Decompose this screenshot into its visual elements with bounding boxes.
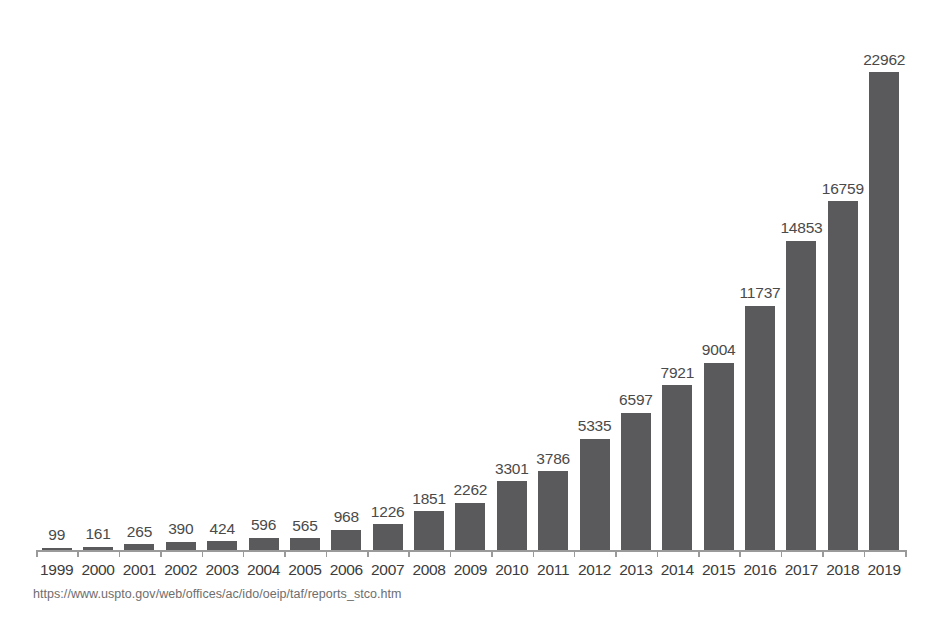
bar-slot: 9004	[698, 20, 739, 550]
x-axis-tick-label: 2008	[408, 559, 449, 583]
bar-value-label: 1851	[412, 491, 446, 507]
x-axis-tick	[326, 550, 328, 557]
source-url-text: https://www.uspto.gov/web/offices/ac/ido…	[33, 587, 402, 601]
x-axis-tick	[36, 550, 38, 557]
bar-value-label: 161	[85, 526, 110, 542]
bar-value-label: 22962	[863, 52, 905, 68]
bar-value-label: 14853	[780, 220, 822, 236]
bar-slot: 6597	[615, 20, 656, 550]
bar-slot: 2262	[450, 20, 491, 550]
bar-series: 9916126539042459656596812261851226233013…	[36, 20, 905, 550]
bar-slot: 265	[119, 20, 160, 550]
x-axis-tick	[367, 550, 369, 557]
bar	[580, 439, 610, 550]
bar-value-label: 9004	[702, 342, 736, 358]
x-axis-tick-label: 2017	[781, 559, 822, 583]
bar	[166, 542, 196, 550]
bar	[704, 363, 734, 550]
bar-value-label: 968	[334, 509, 359, 525]
x-axis-tick	[698, 550, 700, 557]
x-axis-tick-label: 2012	[574, 559, 615, 583]
bar	[869, 72, 899, 550]
x-axis-tick	[739, 550, 741, 557]
x-axis-tick-label: 2010	[491, 559, 532, 583]
bar	[414, 511, 444, 550]
bar-value-label: 265	[127, 524, 152, 540]
bar-value-label: 596	[251, 517, 276, 533]
bar-value-label: 11737	[740, 285, 781, 301]
bar	[207, 541, 237, 550]
bar-slot: 22962	[864, 20, 905, 550]
x-axis-tick-label: 2016	[739, 559, 780, 583]
x-axis-tick-label: 2003	[202, 559, 243, 583]
x-axis-tick-label: 2011	[533, 559, 574, 583]
bar	[745, 306, 775, 550]
x-axis-tick-label: 2015	[698, 559, 739, 583]
bar-slot: 5335	[574, 20, 615, 550]
bar	[621, 413, 651, 550]
bar	[828, 201, 858, 550]
x-axis-tick	[77, 550, 79, 557]
bar	[497, 481, 527, 550]
bar	[373, 524, 403, 550]
x-axis-tick	[574, 550, 576, 557]
bar-chart: 9916126539042459656596812261851226233013…	[0, 0, 939, 629]
x-axis-tick	[284, 550, 286, 557]
x-axis-tick-label: 2005	[284, 559, 325, 583]
x-axis-tick-label: 2004	[243, 559, 284, 583]
bar	[662, 385, 692, 550]
plot-area: 9916126539042459656596812261851226233013…	[36, 20, 905, 550]
x-axis-tick	[243, 550, 245, 557]
bar-slot: 3301	[491, 20, 532, 550]
x-axis-tick-label: 2001	[119, 559, 160, 583]
bar-slot: 390	[160, 20, 201, 550]
x-axis-tick	[450, 550, 452, 557]
bar-slot: 14853	[781, 20, 822, 550]
bar	[455, 503, 485, 550]
bar-value-label: 390	[168, 521, 193, 537]
bar-value-label: 2262	[454, 482, 488, 498]
x-axis-tick-label: 2013	[615, 559, 656, 583]
x-axis-tick	[615, 550, 617, 557]
x-axis-baseline	[36, 550, 905, 552]
x-axis-tick	[905, 550, 907, 557]
x-axis-tick	[160, 550, 162, 557]
x-axis-tick-labels: 1999200020012002200320042005200620072008…	[36, 559, 905, 583]
x-axis-tick	[657, 550, 659, 557]
bar-slot: 1851	[408, 20, 449, 550]
x-axis-tick-label: 2002	[160, 559, 201, 583]
x-axis-tick	[781, 550, 783, 557]
x-axis-tick-label: 2006	[326, 559, 367, 583]
x-axis-tick-label: 2014	[657, 559, 698, 583]
x-axis-tick	[202, 550, 204, 557]
bar-slot: 11737	[739, 20, 780, 550]
x-axis-tick	[491, 550, 493, 557]
x-axis-tick	[119, 550, 121, 557]
x-axis-tick	[408, 550, 410, 557]
bar-slot: 161	[77, 20, 118, 550]
bar-value-label: 6597	[619, 392, 653, 408]
bar	[538, 471, 568, 550]
x-axis-tick	[533, 550, 535, 557]
bar-slot: 3786	[533, 20, 574, 550]
bar-slot: 596	[243, 20, 284, 550]
bar-value-label: 99	[48, 527, 65, 543]
bar-slot: 99	[36, 20, 77, 550]
bar-slot: 16759	[822, 20, 863, 550]
bar-value-label: 5335	[578, 418, 612, 434]
bar	[786, 241, 816, 550]
x-axis-tick-label: 2018	[822, 559, 863, 583]
bar-value-label: 16759	[822, 181, 864, 197]
bar-slot: 7921	[657, 20, 698, 550]
bar-value-label: 565	[292, 518, 317, 534]
x-axis-tick	[864, 550, 866, 557]
bar	[331, 530, 361, 550]
bar	[290, 538, 320, 550]
bar-slot: 565	[284, 20, 325, 550]
bar-slot: 424	[202, 20, 243, 550]
x-axis-tick-label: 2000	[77, 559, 118, 583]
x-axis-tick-label: 2019	[864, 559, 905, 583]
x-axis-tick-label: 2007	[367, 559, 408, 583]
bar-slot: 1226	[367, 20, 408, 550]
x-axis-tick-label: 1999	[36, 559, 77, 583]
